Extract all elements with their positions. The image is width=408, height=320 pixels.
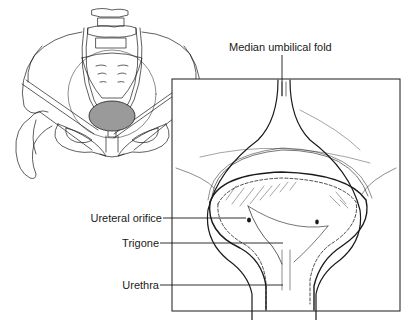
- label-ureteral-orifice: Ureteral orifice: [90, 212, 162, 224]
- bladder-small: [89, 101, 135, 131]
- pubic-symphysis: [100, 136, 124, 157]
- left-ureteral-orifice: [247, 217, 251, 222]
- label-trigone: Trigone: [122, 237, 159, 249]
- vertebra-top: [92, 9, 128, 18]
- right-obturator: [118, 124, 169, 156]
- right-ureteral-orifice: [315, 220, 319, 225]
- anatomy-illustration: [0, 0, 408, 320]
- vertebra-middle: [88, 26, 136, 37]
- inset-box: [172, 79, 400, 311]
- label-urethra: Urethra: [122, 279, 159, 291]
- left-iliac-wing: [22, 32, 92, 150]
- label-median-umbilical-fold: Median umbilical fold: [229, 41, 332, 53]
